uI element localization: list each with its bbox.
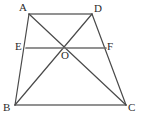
- vertex-label-o: O: [61, 50, 69, 61]
- geometry-figure: ADBCEFO: [0, 0, 143, 121]
- figure-canvas: [0, 0, 143, 121]
- vertex-label-d: D: [94, 3, 102, 14]
- vertex-label-c: C: [128, 102, 135, 113]
- vertex-label-f: F: [107, 41, 113, 52]
- vertex-label-a: A: [19, 2, 27, 13]
- vertex-label-e: E: [15, 41, 22, 52]
- vertex-label-b: B: [3, 102, 10, 113]
